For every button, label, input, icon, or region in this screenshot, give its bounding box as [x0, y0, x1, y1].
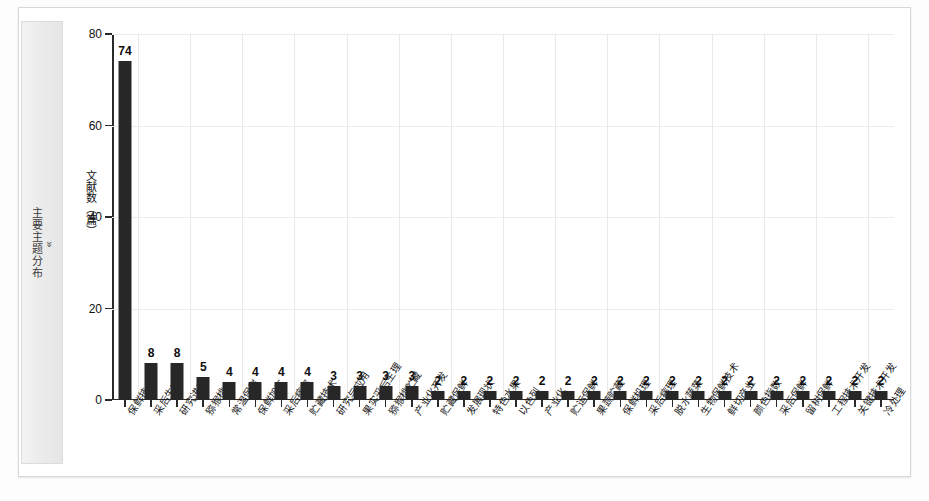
y-tick — [105, 33, 112, 35]
bar-group[interactable]: 2发展现状 — [451, 34, 477, 400]
bar-group[interactable]: 5猕猴桃 — [190, 34, 216, 400]
y-tick — [105, 308, 112, 310]
y-tick-label: 40 — [89, 210, 102, 224]
bar-value-label: 4 — [304, 365, 311, 379]
bar-value-label: 2 — [617, 374, 624, 388]
y-axis-label: 文献数（篇） — [82, 170, 98, 236]
bar-group[interactable]: 2保鲜机理 — [607, 34, 633, 400]
bar-group[interactable]: 2采后保鲜 — [764, 34, 790, 400]
plot-area: 020406080 74保鲜技术8采后生理8研究进展5猕猴桃4常温保鲜4保鲜加工… — [112, 34, 894, 400]
bar[interactable] — [171, 363, 184, 400]
bar-value-label: 5 — [200, 360, 207, 374]
sidebar-label: 主要主题分布 — [29, 207, 43, 279]
y-tick-label: 20 — [89, 302, 102, 316]
bar[interactable] — [119, 61, 132, 400]
y-tick-label: 60 — [89, 119, 102, 133]
bar-value-label: 4 — [252, 365, 259, 379]
bar-group[interactable]: 8采后生理 — [138, 34, 164, 400]
bar-value-label: 8 — [174, 346, 181, 360]
bar-value-label: 2 — [825, 374, 832, 388]
bar-value-label: 3 — [356, 369, 363, 383]
bar-value-label: 74 — [118, 44, 131, 58]
bar-value-label: 2 — [591, 374, 598, 388]
bar-group[interactable]: 2贮运保鲜 — [555, 34, 581, 400]
bar-value-label: 3 — [408, 369, 415, 383]
bar-value-label: 2 — [565, 374, 572, 388]
bar-value-label: 2 — [669, 374, 676, 388]
bar-value-label: 2 — [799, 374, 806, 388]
bar-group[interactable]: 3猕猴桃贮藏 — [373, 34, 399, 400]
bar-group[interactable]: 3果实采后生理 — [347, 34, 373, 400]
bar-value-label: 8 — [148, 346, 155, 360]
bar-chart: 文献数（篇） 020406080 74保鲜技术8采后生理8研究进展5猕猴桃4常温… — [70, 20, 910, 475]
bar-group[interactable]: 2工程技术开发 — [816, 34, 842, 400]
bar-value-label: 3 — [382, 369, 389, 383]
bar-group[interactable]: 2颜色指数 — [738, 34, 764, 400]
bar-value-label: 2 — [461, 374, 468, 388]
bar-value-label: 2 — [539, 374, 546, 388]
bar-value-label: 2 — [513, 374, 520, 388]
bar-group[interactable]: 4贮藏技术 — [294, 34, 320, 400]
x-tick-label-wrapper: 冷处理 — [879, 384, 908, 417]
y-tick — [105, 399, 112, 401]
double-chevron-right-icon[interactable]: » — [43, 241, 56, 248]
bar-value-label: 2 — [434, 374, 441, 388]
x-tick-label: 冷处理 — [879, 384, 908, 417]
bar-value-label: 2 — [773, 374, 780, 388]
bar-group[interactable]: 4采后病害 — [268, 34, 294, 400]
bar-value-label: 2 — [487, 374, 494, 388]
bar-value-label: 4 — [278, 365, 285, 379]
bar-value-label: 3 — [330, 369, 337, 383]
bar-value-label: 2 — [721, 374, 728, 388]
bar-group[interactable]: 8研究进展 — [164, 34, 190, 400]
bar-group[interactable]: 2采后病理 — [633, 34, 659, 400]
bar-group[interactable]: 2贮藏保鲜 — [425, 34, 451, 400]
bar-group[interactable]: 2产业化 — [529, 34, 555, 400]
bar-group[interactable]: 2鲜切产业 — [712, 34, 738, 400]
bar-group[interactable]: 2脱水蔬菜 — [659, 34, 685, 400]
bar-value-label: 4 — [226, 365, 233, 379]
y-tick-label: 80 — [89, 27, 102, 41]
bar-group[interactable]: 3产业化开发 — [399, 34, 425, 400]
bar-group[interactable]: 4常温保鲜 — [216, 34, 242, 400]
bar-group[interactable]: 2关键技术开发 — [842, 34, 868, 400]
bar-value-label: 2 — [695, 374, 702, 388]
bar-group[interactable]: 2以色列 — [503, 34, 529, 400]
bar-value-label: 2 — [878, 374, 885, 388]
bar-series: 74保鲜技术8采后生理8研究进展5猕猴桃4常温保鲜4保鲜加工4采后病害4贮藏技术… — [112, 34, 894, 400]
bar-group[interactable]: 74保鲜技术 — [112, 34, 138, 400]
bar-group[interactable]: 2果蔬贮藏 — [581, 34, 607, 400]
bar-value-label: 2 — [747, 374, 754, 388]
bar-value-label: 2 — [852, 374, 859, 388]
bar-group[interactable]: 3研究与应用 — [321, 34, 347, 400]
bar-group[interactable]: 2冷处理 — [868, 34, 894, 400]
bar-group[interactable]: 4保鲜加工 — [242, 34, 268, 400]
bar-group[interactable]: 2生物保鲜技术 — [685, 34, 711, 400]
sidebar-tab-main-topic-distribution[interactable]: 主要主题分布 » — [21, 21, 63, 464]
bar[interactable] — [145, 363, 158, 400]
bar-group[interactable]: 2特色水果 — [477, 34, 503, 400]
screenshot-root: 主要主题分布 » 文献数（篇） 020406080 74保鲜技术8采后生理8研究… — [0, 0, 929, 501]
y-tick — [105, 125, 112, 127]
y-tick — [105, 216, 112, 218]
y-tick-label: 0 — [95, 393, 102, 407]
bar-group[interactable]: 2留树保鲜 — [790, 34, 816, 400]
bar-value-label: 2 — [643, 374, 650, 388]
